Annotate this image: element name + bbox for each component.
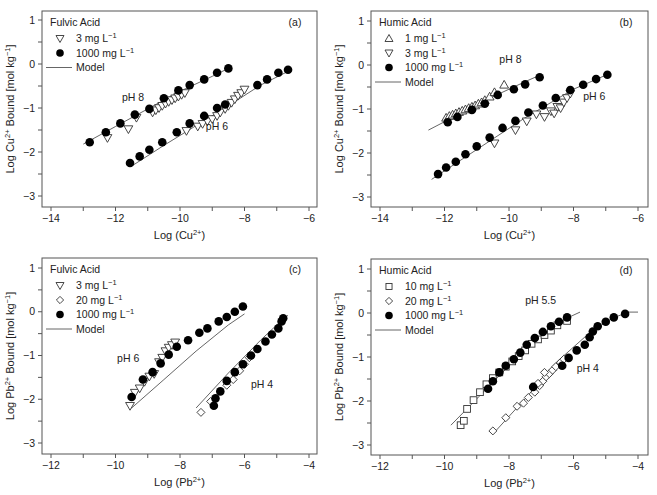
y-tick-label: 1 [29, 262, 35, 274]
y-tick-label: −3 [23, 190, 35, 202]
svg-text:3 mg L−1: 3 mg L−1 [405, 46, 446, 59]
y-tick-label: −1 [352, 103, 364, 115]
ph-annotation: pH 6 [117, 352, 139, 364]
legend-item: 1000 mg L−1 [56, 46, 134, 59]
legend-item: 1 mg L−1 [385, 31, 446, 44]
series-circle [210, 314, 288, 410]
legend-title: Humic Acid [379, 264, 432, 276]
legend-item: 3 mg L−1 [56, 278, 117, 291]
y-axis-label: Log Cu2+ Bound [mol kg−1] [332, 44, 345, 173]
x-tick-label: −12 [436, 212, 454, 224]
svg-text:3 mg L−1: 3 mg L−1 [76, 31, 117, 44]
legend-item: 20 mg L−1 [385, 294, 451, 307]
y-tick-label: 1 [29, 14, 35, 26]
legend-title: Fulvic Acid [50, 16, 100, 28]
x-tick-label: −8 [239, 212, 251, 224]
legend-item: 20 mg L−1 [56, 293, 122, 306]
panel-label: (c) [289, 263, 301, 275]
y-tick-label: −3 [23, 437, 35, 449]
ph-annotation: pH 4 [577, 362, 599, 374]
svg-text:Model: Model [405, 76, 434, 88]
series-diamond [489, 355, 568, 435]
ph-annotation: pH 6 [206, 120, 228, 132]
legend-item: 1000 mg L−1 [385, 308, 463, 321]
y-tick-label: 0 [29, 305, 35, 317]
y-tick-label: −2 [352, 147, 364, 159]
y-tick-label: −1 [23, 102, 35, 114]
chart-panel-d: −12−10−8−6−410−1−2−3Log (Pb2+)Log Pb2+ B… [332, 259, 648, 489]
x-tick-label: −12 [371, 460, 389, 472]
x-tick-label: −4 [632, 460, 644, 472]
legend-item: 3 mg L−1 [385, 46, 446, 59]
y-tick-label: −2 [352, 395, 364, 407]
legend-item: Model [46, 323, 105, 335]
panel-label: (d) [620, 264, 633, 276]
y-axis-label: Log Pb2+ Bound [mol kg−1] [332, 293, 345, 421]
svg-text:20 mg L−1: 20 mg L−1 [405, 294, 452, 307]
chart-panel-b: −14−12−10−8−610−1−2−3Log (Cu2+)Log Cu2+ … [332, 11, 648, 241]
y-tick-label: −3 [352, 439, 364, 451]
y-axis-label: Log Cu2+ Bound [mol kg−1] [3, 44, 16, 173]
x-axis-label: Log (Pb2+) [154, 475, 205, 488]
series-tri-up [442, 80, 509, 121]
svg-text:20 mg L−1: 20 mg L−1 [76, 293, 123, 306]
y-tick-label: 1 [358, 263, 364, 275]
x-tick-label: −14 [371, 212, 389, 224]
ph-annotation: pH 6 [583, 90, 605, 102]
figure-four-panel-binding-isotherms: −14−12−10−8−610−1−2−3Log (Cu2+)Log Cu2+ … [0, 0, 657, 495]
x-tick-label: −10 [500, 212, 518, 224]
legend-item: 1000 mg L−1 [56, 307, 134, 320]
y-tick-label: −1 [352, 351, 364, 363]
x-axis-label: Log (Cu2+) [484, 228, 535, 241]
svg-text:1000 mg L−1: 1000 mg L−1 [405, 308, 463, 321]
ph-annotation: pH 5.5 [525, 294, 556, 306]
y-tick-label: 0 [29, 58, 35, 70]
svg-text:10 mg L−1: 10 mg L−1 [405, 279, 452, 292]
x-tick-label: −4 [303, 459, 315, 471]
legend-item: Model [46, 61, 105, 73]
y-tick-label: −2 [23, 146, 35, 158]
svg-text:Model: Model [76, 61, 105, 73]
ph-annotation: pH 4 [251, 378, 273, 390]
panel-label: (b) [620, 16, 633, 28]
x-tick-label: −8 [503, 460, 515, 472]
y-tick-label: −2 [23, 393, 35, 405]
svg-text:1000 mg L−1: 1000 mg L−1 [405, 60, 463, 73]
x-axis-label: Log (Cu2+) [154, 228, 205, 241]
svg-text:1 mg L−1: 1 mg L−1 [405, 31, 446, 44]
svg-text:1000 mg L−1: 1000 mg L−1 [76, 46, 134, 59]
x-tick-label: −6 [239, 459, 251, 471]
y-tick-label: 0 [358, 59, 364, 71]
y-axis-label: Log Pb2+ Bound [mol kg−1] [3, 292, 16, 420]
legend-title: Humic Acid [379, 16, 432, 28]
svg-text:3 mg L−1: 3 mg L−1 [76, 278, 117, 291]
x-tick-label: −6 [568, 460, 580, 472]
x-tick-label: −8 [174, 459, 186, 471]
svg-text:Model: Model [405, 324, 434, 336]
y-tick-label: 0 [358, 307, 364, 319]
y-tick-label: −1 [23, 349, 35, 361]
chart-panel-c: −12−10−8−6−410−1−2−3Log (Pb2+)Log Pb2+ B… [3, 258, 317, 488]
legend-item: Model [375, 324, 434, 336]
svg-text:1000 mg L−1: 1000 mg L−1 [76, 307, 134, 320]
y-tick-label: 1 [358, 15, 364, 27]
panel-label: (a) [289, 16, 302, 28]
model-line [132, 314, 245, 408]
series-tri-down [490, 90, 575, 147]
figure-canvas: −14−12−10−8−610−1−2−3Log (Cu2+)Log Cu2+ … [0, 0, 657, 495]
model-line [493, 312, 638, 434]
x-tick-label: −12 [107, 212, 125, 224]
legend-title: Fulvic Acid [50, 263, 100, 275]
legend-item: Model [375, 76, 434, 88]
x-tick-label: −10 [107, 459, 125, 471]
x-tick-label: −6 [632, 212, 644, 224]
ph-annotation: pH 8 [122, 91, 144, 103]
x-tick-label: −14 [42, 212, 60, 224]
x-tick-label: −10 [171, 212, 189, 224]
legend-item: 1000 mg L−1 [385, 60, 463, 73]
svg-text:Model: Model [76, 323, 105, 335]
x-tick-label: −10 [436, 460, 454, 472]
legend-item: 10 mg L−1 [386, 279, 452, 292]
ph-annotation: pH 8 [499, 53, 521, 65]
x-tick-label: −6 [303, 212, 315, 224]
